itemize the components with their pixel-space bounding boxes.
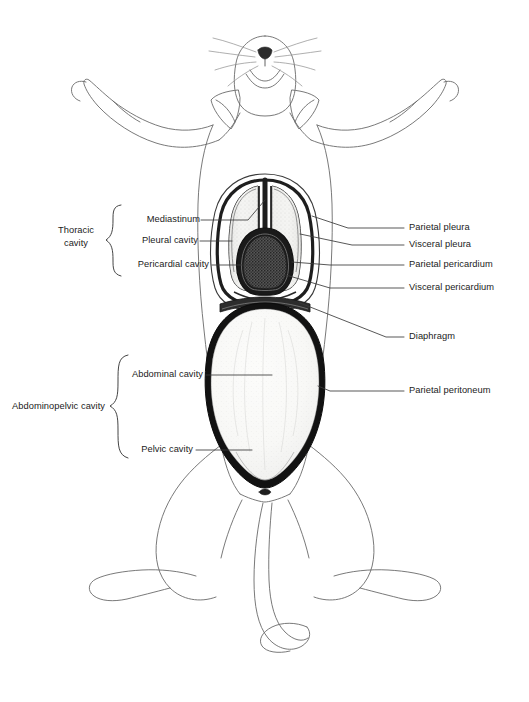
anatomy-drawing [0,0,529,702]
label-diaphragm-text: Diaphragm [409,331,455,341]
foreleg-right [311,79,446,147]
label-pericardial-cavity: Pericardial cavity [61,259,209,271]
hindpaw-left [89,570,196,601]
ear-left [211,90,240,129]
label-pericardial-cavity-text: Pericardial cavity [138,259,209,269]
label-parietal-peritoneum-text: Parietal peritoneum [409,385,491,395]
label-diaphragm: Diaphragm [409,331,455,343]
label-visceral-pericardium: Visceral pericardium [409,282,494,294]
anus-mark [259,489,271,495]
ear-right-inner [295,100,314,122]
thoracic-cavity-drawing [211,174,320,312]
mouth-line [250,70,280,81]
label-visceral-pleura-text: Visceral pleura [409,239,471,249]
label-abdominal-cavity-text: Abdominal cavity [132,369,203,379]
group-label-abdominopelvic: Abdominopelvic cavity [0,400,105,413]
label-abdominal-cavity: Abdominal cavity [61,369,203,381]
thigh-crease-left [221,500,242,558]
thigh-crease-right [288,500,309,558]
abdominopelvic-cavity-drawing [205,303,325,488]
leader-parietal-pleura [312,216,404,228]
label-visceral-pleura: Visceral pleura [409,239,471,251]
tail-edge-inner [269,503,308,640]
anatomy-figure: Thoracic cavity Abdominopelvic cavity Me… [0,0,529,702]
hindleg-right [309,445,374,600]
hindleg-left [156,445,221,600]
tail-edge-outer [254,503,310,649]
label-parietal-pleura: Parietal pleura [409,222,470,234]
leader-diaphragm [300,303,404,337]
leader-parietal-peritoneum [318,386,404,391]
label-mediastinum: Mediastinum [61,214,200,226]
ear-right [290,90,319,129]
label-parietal-pleura-text: Parietal pleura [409,222,470,232]
label-pelvic-cavity-text: Pelvic cavity [141,444,193,454]
hindpaw-right [334,570,441,601]
label-pelvic-cavity: Pelvic cavity [61,444,193,456]
ear-left-inner [216,100,235,122]
label-pleural-cavity-text: Pleural cavity [142,235,198,245]
label-parietal-pericardium-text: Parietal pericardium [409,259,493,269]
foreleg-left [84,79,219,147]
group-label-abdominopelvic-text: Abdominopelvic cavity [12,401,105,411]
label-parietal-peritoneum: Parietal peritoneum [409,385,491,397]
label-parietal-pericardium: Parietal pericardium [409,259,493,271]
pericardial-cavity [243,236,286,289]
label-mediastinum-text: Mediastinum [147,214,200,224]
label-pleural-cavity: Pleural cavity [61,235,198,247]
label-visceral-pericardium-text: Visceral pericardium [409,282,494,292]
